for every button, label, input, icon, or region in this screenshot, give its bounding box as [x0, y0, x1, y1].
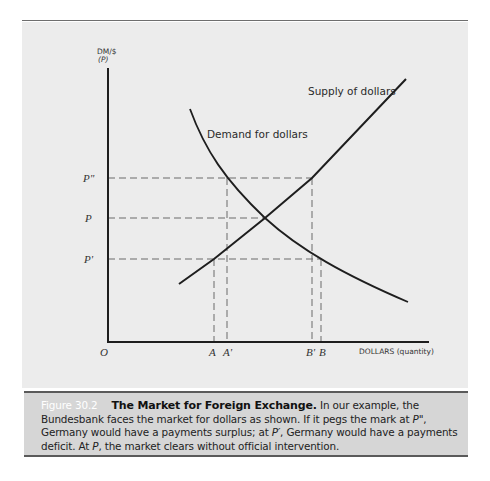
- y-tick-p-double-prime: P": [82, 172, 95, 184]
- caption-text-4: , the market clears without official int…: [98, 440, 339, 452]
- y-axis-label-symbol: (P): [98, 55, 108, 64]
- figure-number: Figure 30.2: [41, 399, 98, 411]
- guide-lines: [108, 178, 321, 342]
- caption-p-prime: P′: [272, 426, 280, 438]
- y-tick-p-prime: P': [83, 253, 94, 265]
- figure-title: The Market for Foreign Exchange.: [112, 399, 317, 412]
- origin-label: O: [100, 346, 108, 358]
- caption-bottom-rule: [24, 455, 468, 457]
- caption-p-double-prime: P": [413, 413, 424, 425]
- x-tick-a: A: [208, 346, 216, 358]
- supply-curve-label: Supply of dollars: [308, 85, 396, 97]
- figure-caption: Figure 30.2The Market for Foreign Exchan…: [24, 393, 468, 455]
- x-tick-b-prime: B': [306, 346, 316, 358]
- demand-curve-label: Demand for dollars: [207, 128, 308, 140]
- x-tick-b: B: [319, 346, 326, 358]
- y-tick-p: P: [84, 212, 92, 224]
- x-tick-a-prime: A': [222, 346, 233, 358]
- supply-curve: [179, 79, 406, 284]
- x-axis-label: DOLLARS (quantity): [359, 347, 434, 356]
